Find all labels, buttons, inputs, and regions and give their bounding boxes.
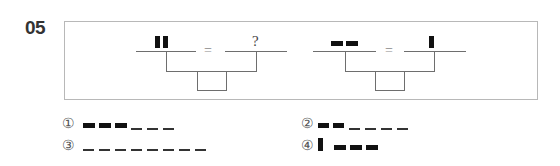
- wide-bar: [333, 123, 344, 128]
- eq1-equals-sign: =: [204, 44, 212, 58]
- short-dash: [163, 149, 174, 151]
- wide-bar: [334, 145, 346, 150]
- eq2-right-stem: [434, 51, 435, 71]
- short-dash: [131, 149, 142, 151]
- short-dash: [147, 149, 158, 151]
- short-dash: [163, 128, 174, 130]
- option-1-marker: ①: [62, 117, 75, 131]
- eq1-tall-bar-1: [155, 36, 160, 48]
- eq2-wide-bar-1: [331, 41, 343, 46]
- option-4-marker: ④: [301, 139, 314, 153]
- eq1-left-stem: [166, 51, 167, 71]
- wide-bar: [115, 123, 127, 128]
- eq2-right-line: [404, 51, 466, 52]
- option-4[interactable]: ④: [301, 139, 451, 153]
- puzzle-panel: [64, 21, 538, 100]
- option-2-marker: ②: [301, 117, 314, 131]
- short-dash: [397, 128, 408, 130]
- short-dash: [131, 128, 142, 130]
- option-1[interactable]: ①: [62, 119, 232, 133]
- eq1-right-stem: [256, 51, 257, 71]
- eq1-question-mark: ?: [252, 34, 259, 49]
- question-number: 05: [25, 17, 45, 39]
- wide-bar: [83, 123, 95, 128]
- eq2-tall-bar: [429, 36, 434, 48]
- short-dash: [179, 149, 190, 151]
- short-dash: [195, 149, 206, 151]
- option-3[interactable]: ③: [62, 141, 262, 155]
- wide-bar: [318, 123, 329, 128]
- short-dash: [147, 128, 158, 130]
- tall-bar: [318, 138, 323, 151]
- short-dash: [365, 128, 376, 130]
- eq2-answer-box: [375, 71, 405, 91]
- eq2-wide-bar-2: [346, 41, 358, 46]
- eq1-answer-box: [197, 71, 227, 91]
- short-dash: [381, 128, 392, 130]
- short-dash: [349, 128, 360, 130]
- wide-bar: [350, 145, 362, 150]
- short-dash: [99, 149, 110, 151]
- option-3-marker: ③: [62, 139, 75, 153]
- option-2[interactable]: ②: [301, 119, 451, 133]
- wide-bar: [366, 145, 378, 150]
- eq2-left-stem: [345, 51, 346, 71]
- short-dash: [115, 149, 126, 151]
- wide-bar: [99, 123, 111, 128]
- short-dash: [83, 149, 94, 151]
- eq2-equals-sign: =: [385, 44, 393, 58]
- eq1-tall-bar-2: [163, 36, 168, 48]
